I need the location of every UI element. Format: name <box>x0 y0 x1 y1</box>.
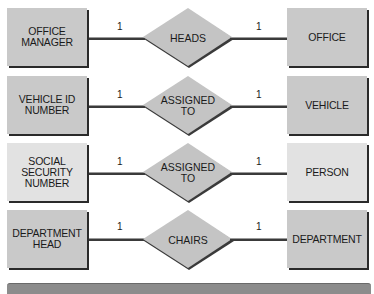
connector-line-left <box>89 239 145 241</box>
cardinality-right: 1 <box>256 156 262 167</box>
entity-label-line: SECURITY <box>21 167 73 178</box>
cardinality-right: 1 <box>256 89 262 100</box>
relationship-row-2: VEHICLE ID NUMBER 1 ASSIGNED TO 1 VEHICL… <box>0 76 374 138</box>
relationship-label-line: HEADS <box>170 33 206 44</box>
relationship-assigned-to: ASSIGNED TO <box>143 76 233 136</box>
connector-line-left <box>89 38 145 40</box>
cardinality-right: 1 <box>256 21 262 32</box>
connector-line-right <box>230 173 287 175</box>
cardinality-right: 1 <box>256 221 262 232</box>
cardinality-left: 1 <box>117 221 123 232</box>
cardinality-left: 1 <box>117 89 123 100</box>
entity-office-manager: OFFICE MANAGER <box>7 8 87 66</box>
connector-line-right <box>230 106 287 108</box>
entity-label-line: HEAD <box>12 239 81 250</box>
entity-label-line: NUMBER <box>19 105 75 116</box>
entity-label-line: VEHICLE <box>305 100 349 111</box>
entity-department: DEPARTMENT <box>287 210 367 268</box>
relationship-heads: HEADS <box>143 8 233 68</box>
entity-label-line: SOCIAL <box>21 156 73 167</box>
entity-person: PERSON <box>287 143 367 201</box>
connector-line-left <box>89 106 145 108</box>
relationship-chairs: CHAIRS <box>143 210 233 270</box>
relationship-assigned-to: ASSIGNED TO <box>143 143 233 203</box>
connector-line-right <box>230 38 287 40</box>
cardinality-left: 1 <box>117 156 123 167</box>
entity-social-security-number: SOCIAL SECURITY NUMBER <box>7 143 87 201</box>
relationship-row-3: SOCIAL SECURITY NUMBER 1 ASSIGNED TO 1 P… <box>0 143 374 205</box>
entity-vehicle-id-number: VEHICLE ID NUMBER <box>7 76 87 134</box>
entity-label-line: OFFICE <box>308 32 345 43</box>
footer-bar <box>7 283 371 294</box>
entity-label-line: MANAGER <box>21 37 73 48</box>
entity-label-line: DEPARTMENT <box>292 234 361 245</box>
relationship-label-line: TO <box>161 106 215 117</box>
relationship-label-line: TO <box>161 173 215 184</box>
relationship-row-1: OFFICE MANAGER 1 HEADS 1 OFFICE <box>0 8 374 70</box>
connector-line-left <box>89 173 145 175</box>
relationship-label-line: CHAIRS <box>168 235 208 246</box>
connector-line-right <box>230 239 287 241</box>
cardinality-left: 1 <box>117 21 123 32</box>
entity-vehicle: VEHICLE <box>287 76 367 134</box>
entity-label-line: NUMBER <box>21 178 73 189</box>
relationship-row-4: DEPARTMENT HEAD 1 CHAIRS 1 DEPARTMENT <box>0 210 374 272</box>
entity-label-line: PERSON <box>305 167 348 178</box>
entity-office: OFFICE <box>287 8 367 66</box>
entity-department-head: DEPARTMENT HEAD <box>7 210 87 268</box>
